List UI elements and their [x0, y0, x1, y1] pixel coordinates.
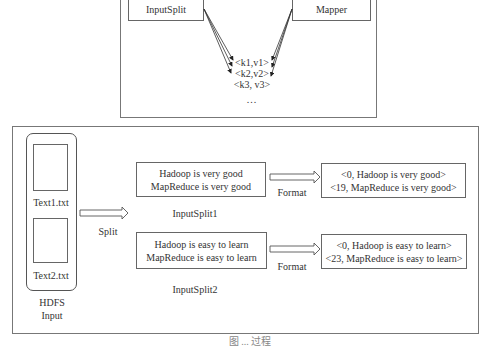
inputsplit2-box: Hadoop is easy to learn MapReduce is eas…	[136, 232, 267, 269]
inputsplit2-label: InputSplit2	[150, 284, 240, 296]
figure-caption: 图 ... 过程	[180, 336, 320, 348]
inputsplit1-line2: MapReduce is very good	[151, 180, 251, 193]
split-arrow-icon	[80, 207, 128, 219]
inputsplit2-line1: Hadoop is easy to learn	[155, 238, 249, 251]
inputsplit1-label: InputSplit1	[150, 208, 240, 220]
split-label: Split	[88, 226, 128, 238]
record-2-2: <23, MapReduce is easy to learn>	[326, 252, 463, 265]
record-2-1: <0, Hadoop is easy to learn>	[336, 239, 451, 252]
record-1-2: <19, MapReduce is very good>	[330, 181, 457, 194]
inputsplit2-line2: MapReduce is easy to learn	[146, 251, 257, 264]
format-label-2: Format	[272, 261, 312, 273]
inputsplit1-box: Hadoop is very good MapReduce is very go…	[136, 162, 266, 197]
record-1-1: <0, Hadoop is very good>	[341, 168, 446, 181]
record-box-1: <0, Hadoop is very good> <19, MapReduce …	[321, 163, 466, 198]
format-arrow-2-icon	[270, 243, 320, 255]
format-label-1: Format	[272, 187, 312, 199]
record-box-2: <0, Hadoop is easy to learn> <23, MapRed…	[321, 234, 467, 269]
format-arrow-1-icon	[270, 171, 320, 183]
inputsplit1-line1: Hadoop is very good	[159, 167, 243, 180]
